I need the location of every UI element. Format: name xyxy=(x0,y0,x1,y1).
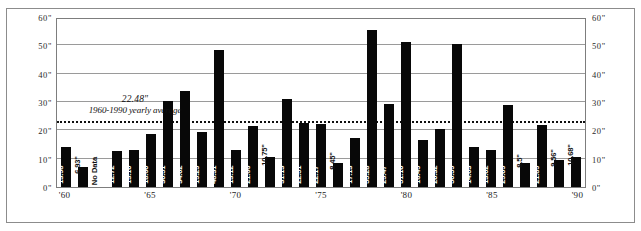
bar-value-label-1970: 13.12" xyxy=(226,162,236,183)
bar-1988[interactable]: 21.89" xyxy=(537,125,547,187)
bar-value-label-1982: 20.32" xyxy=(430,162,440,183)
bar-value-label-1983: 50.59" xyxy=(447,162,457,183)
bar-slot-1985[interactable]: 13.02" xyxy=(482,19,499,187)
bar-slot-1984[interactable]: 14.03" xyxy=(465,19,482,187)
bar-slot-1987[interactable]: 8.5" xyxy=(516,19,533,187)
x-tick-1965: '65 xyxy=(144,190,156,200)
y-tick-left-60: 60" xyxy=(6,13,52,23)
x-tick-1970: '70 xyxy=(230,190,242,200)
bar-1961[interactable]: 6.93" xyxy=(78,167,88,187)
bar-slot-1974[interactable]: 22.51" xyxy=(296,19,313,187)
bar-1978[interactable]: 55.28" xyxy=(367,30,377,187)
x-tick-1985: '85 xyxy=(486,190,498,200)
bar-slot-1977[interactable]: 17.13" xyxy=(346,19,363,187)
bar-value-label-1960: 13.98" xyxy=(56,162,66,183)
y-tick-left-30: 30" xyxy=(6,98,52,108)
y-tick-right-60: 60" xyxy=(588,13,638,23)
bar-value-label-1972: 10.75" xyxy=(260,144,270,165)
bar-value-label-1966: 30.51" xyxy=(158,162,168,183)
bar-1977[interactable]: 17.13" xyxy=(350,138,360,187)
bar-1979[interactable]: 29.47" xyxy=(384,104,394,187)
bar-1969[interactable]: 48.31" xyxy=(214,50,224,187)
y-axis-right: 0"10"20"30"40"50"60" xyxy=(588,18,638,188)
bar-1971[interactable]: 21.66" xyxy=(248,126,258,187)
x-tick-1975: '75 xyxy=(315,190,327,200)
bar-value-label-1964: 13.10" xyxy=(124,162,134,183)
bar-1963[interactable]: 12.72" xyxy=(112,151,122,187)
bar-1968[interactable]: 19.29" xyxy=(197,132,207,187)
y-tick-left-50: 50" xyxy=(6,41,52,51)
bar-value-label-1980: 51.10" xyxy=(396,162,406,183)
bar-1965[interactable]: 18.60" xyxy=(146,134,156,187)
chart-figure: 0"10"20"30"40"50"60" 0"10"20"30"40"50"60… xyxy=(0,0,641,231)
bar-value-label-1988: 21.89" xyxy=(532,162,542,183)
bar-1973[interactable]: 31.13" xyxy=(282,99,292,187)
bar-value-label-1987: 8.5" xyxy=(515,154,525,167)
bar-1982[interactable]: 20.32" xyxy=(435,129,445,187)
bar-slot-1990[interactable]: 10.68" xyxy=(567,19,584,187)
y-tick-right-10: 10" xyxy=(588,155,638,165)
bar-1970[interactable]: 13.12" xyxy=(231,150,241,187)
bar-1974[interactable]: 22.51" xyxy=(299,123,309,187)
y-tick-right-40: 40" xyxy=(588,70,638,80)
y-tick-left-0: 0" xyxy=(6,183,52,193)
bar-value-label-1981: 16.49" xyxy=(413,162,423,183)
x-tick-1990: '90 xyxy=(572,190,584,200)
y-axis-left: 0"10"20"30"40"50"60" xyxy=(2,18,52,188)
bar-slot-1982[interactable]: 20.32" xyxy=(431,19,448,187)
bar-1989[interactable]: 9.56" xyxy=(554,160,564,187)
bar-1964[interactable]: 13.10" xyxy=(129,150,139,187)
bar-value-label-1968: 19.29" xyxy=(192,162,202,183)
bar-1985[interactable]: 13.02" xyxy=(486,150,496,187)
bar-slot-1975[interactable]: 22.17" xyxy=(313,19,330,187)
bar-slot-1976[interactable]: 8.45" xyxy=(330,19,347,187)
bar-1983[interactable]: 50.59" xyxy=(452,44,462,187)
average-value-label: 22.48" xyxy=(60,94,210,105)
bar-1976[interactable]: 8.45" xyxy=(333,163,343,187)
bar-slot-1979[interactable]: 29.47" xyxy=(380,19,397,187)
no-data-label: No Data xyxy=(90,157,100,186)
bar-1987[interactable]: 8.5" xyxy=(520,163,530,187)
bar-value-label-1971: 21.66" xyxy=(243,162,253,183)
bar-slot-1989[interactable]: 9.56" xyxy=(550,19,567,187)
bar-slot-1986[interactable]: 29.09" xyxy=(499,19,516,187)
bar-value-label-1978: 55.28" xyxy=(362,162,372,183)
y-tick-left-40: 40" xyxy=(6,70,52,80)
y-tick-right-20: 20" xyxy=(588,126,638,136)
bar-value-label-1989: 9.56" xyxy=(549,149,559,166)
y-tick-right-50: 50" xyxy=(588,41,638,51)
bar-value-label-1961: 6.93" xyxy=(73,157,83,174)
average-caption-label: 1960-1990 yearly average xyxy=(60,105,210,115)
bar-1980[interactable]: 51.10" xyxy=(401,42,411,187)
y-tick-left-20: 20" xyxy=(6,126,52,136)
bar-value-label-1990: 10.68" xyxy=(566,144,576,165)
bar-value-label-1963: 12.72" xyxy=(107,162,117,183)
bar-1972[interactable]: 10.75" xyxy=(265,157,275,187)
bar-value-label-1974: 22.51" xyxy=(294,162,304,183)
bar-slot-1980[interactable]: 51.10" xyxy=(397,19,414,187)
bar-value-label-1979: 29.47" xyxy=(379,162,389,183)
bar-value-label-1984: 14.03" xyxy=(464,162,474,183)
bar-1990[interactable]: 10.68" xyxy=(571,157,581,187)
bar-value-label-1977: 17.13" xyxy=(345,162,355,183)
x-tick-1980: '80 xyxy=(401,190,413,200)
y-tick-left-10: 10" xyxy=(6,155,52,165)
bar-value-label-1976: 8.45" xyxy=(328,152,338,169)
bar-slot-1988[interactable]: 21.89" xyxy=(533,19,550,187)
bar-value-label-1967: 34.02" xyxy=(175,162,185,183)
bar-slot-1981[interactable]: 16.49" xyxy=(414,19,431,187)
bar-slot-1983[interactable]: 50.59" xyxy=(448,19,465,187)
bar-slot-1978[interactable]: 55.28" xyxy=(363,19,380,187)
x-tick-1960: '60 xyxy=(59,190,71,200)
bar-1986[interactable]: 29.09" xyxy=(503,105,513,187)
bar-1984[interactable]: 14.03" xyxy=(469,147,479,187)
bar-1975[interactable]: 22.17" xyxy=(316,124,326,187)
bar-value-label-1985: 13.02" xyxy=(481,162,491,183)
bar-1960[interactable]: 13.98" xyxy=(61,147,71,187)
bar-value-label-1986: 29.09" xyxy=(498,162,508,183)
average-annotation: 22.48" 1960-1990 yearly average xyxy=(60,94,210,115)
bar-value-label-1973: 31.13" xyxy=(277,162,287,183)
bar-value-label-1969: 48.31" xyxy=(209,162,219,183)
bar-1981[interactable]: 16.49" xyxy=(418,140,428,187)
y-tick-right-30: 30" xyxy=(588,98,638,108)
